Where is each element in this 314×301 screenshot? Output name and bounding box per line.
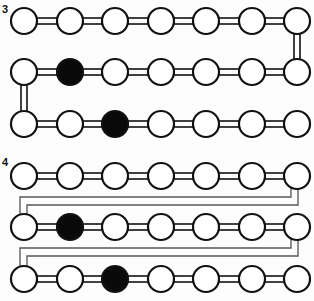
empty-bead [148,266,174,292]
empty-bead [193,59,219,85]
empty-bead [193,111,219,137]
empty-bead [148,59,174,85]
empty-bead [11,59,37,85]
empty-bead [284,59,310,85]
empty-bead [148,163,174,189]
empty-bead [102,8,128,34]
filled-bead [57,59,83,85]
empty-bead [11,266,37,292]
filled-bead [102,111,128,137]
empty-bead [193,214,219,240]
empty-bead [11,163,37,189]
wire-connector [20,188,291,215]
empty-bead [239,163,265,189]
empty-bead [284,214,310,240]
empty-bead [239,59,265,85]
empty-bead [57,163,83,189]
wire-connector [27,188,298,215]
empty-bead [148,8,174,34]
empty-bead [148,214,174,240]
empty-bead [102,59,128,85]
empty-bead [239,266,265,292]
empty-bead [57,8,83,34]
empty-bead [193,163,219,189]
filled-bead [102,266,128,292]
empty-bead [102,214,128,240]
empty-bead [193,8,219,34]
empty-bead [284,111,310,137]
empty-bead [239,8,265,34]
filled-bead [57,214,83,240]
wire-connector [27,239,298,267]
empty-bead [11,214,37,240]
empty-bead [57,266,83,292]
empty-bead [148,111,174,137]
empty-bead [11,8,37,34]
wire-connector [20,239,291,267]
bead-chain-diagram [0,0,314,301]
empty-bead [284,266,310,292]
empty-bead [239,111,265,137]
empty-bead [284,8,310,34]
empty-bead [11,111,37,137]
empty-bead [193,266,219,292]
empty-bead [102,163,128,189]
empty-bead [239,214,265,240]
empty-bead [57,111,83,137]
empty-bead [284,163,310,189]
